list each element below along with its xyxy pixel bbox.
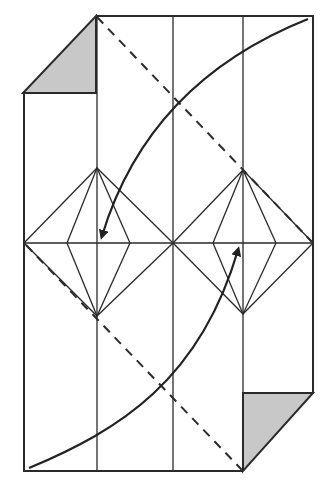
outer-paper-outline [96, 16, 313, 393]
origami-diagram [0, 0, 333, 497]
left-diamond-crease-pattern [24, 168, 173, 316]
shaded-corner-top-left [23, 16, 96, 93]
fold-arrow-lower-curve [29, 250, 238, 468]
valley-fold-dashed-line-lower [26, 245, 242, 470]
shaded-corner-bottom-right [243, 393, 313, 471]
valley-fold-dashed-line-upper [97, 17, 312, 242]
